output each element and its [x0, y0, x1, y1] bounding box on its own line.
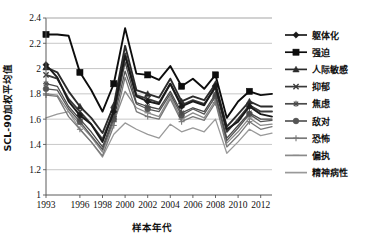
- x-axis-tick-label: 1996: [70, 200, 89, 210]
- legend-label: 焦虑: [311, 98, 330, 109]
- x-axis-tick-label: 2000: [116, 200, 135, 210]
- data-point-marker: [179, 83, 185, 89]
- legend-item-2[interactable]: 人际敏感: [285, 64, 348, 75]
- legend: 躯体化强迫人际敏感抑郁焦虑敌对恐怖偏执精神病性: [285, 30, 348, 179]
- legend-label: 抑郁: [312, 81, 330, 92]
- y-axis-tick-label: 1.4: [29, 140, 41, 150]
- legend-item-8[interactable]: 精神病性: [285, 167, 348, 178]
- data-point-marker: [179, 110, 185, 116]
- data-point-marker: [293, 135, 299, 141]
- grid-lines: [43, 18, 272, 195]
- legend-label: 恐怖: [312, 133, 330, 144]
- legend-label: 敌对: [312, 116, 330, 127]
- legend-label: 精神病性: [312, 167, 348, 178]
- line-chart: 11.21.41.61.822.22.4 1993199619982000200…: [0, 0, 379, 237]
- legend-item-3[interactable]: 抑郁: [285, 81, 330, 92]
- x-axis-tick-label: 2004: [161, 200, 180, 210]
- x-axis-title: 样本年代: [132, 222, 172, 233]
- y-axis-tick-label: 2: [36, 64, 41, 74]
- y-axis-tick-label: 2.2: [29, 39, 41, 49]
- data-point-marker: [145, 72, 151, 78]
- data-point-marker: [293, 118, 299, 124]
- data-point-marker: [111, 81, 117, 87]
- legend-item-4[interactable]: 焦虑: [285, 98, 330, 109]
- legend-item-6[interactable]: 恐怖: [285, 133, 330, 144]
- x-axis-tick-label: 1998: [93, 200, 112, 210]
- legend-label: 强迫: [312, 47, 331, 58]
- y-axis-tick-label: 2.4: [29, 13, 41, 23]
- y-axis-tick-label: 1: [36, 190, 41, 200]
- x-axis-tick-label: 2006: [183, 200, 202, 210]
- data-point-marker: [246, 88, 252, 94]
- y-axis-tick-labels: 11.21.41.61.822.22.4: [29, 13, 41, 200]
- data-point-marker: [293, 49, 299, 55]
- y-axis-title: SCL-90加权平均值: [2, 64, 13, 151]
- y-axis-tick-label: 1.6: [29, 115, 41, 125]
- legend-label: 人际敏感: [311, 64, 348, 75]
- data-point-marker: [77, 69, 83, 75]
- legend-label: 躯体化: [311, 30, 339, 41]
- x-axis-tick-label: 2008: [206, 200, 225, 210]
- legend-label: 偏执: [312, 150, 330, 161]
- legend-item-5[interactable]: 敌对: [285, 116, 330, 127]
- legend-item-0[interactable]: 躯体化: [285, 30, 339, 41]
- x-axis-tick-labels: 1993199619982000200220042006200820102012: [37, 195, 271, 210]
- legend-item-7[interactable]: 偏执: [285, 150, 330, 161]
- data-point-marker: [293, 32, 299, 38]
- data-point-marker: [212, 72, 218, 78]
- chart-container: 11.21.41.61.822.22.4 1993199619982000200…: [0, 0, 379, 237]
- data-point-marker: [145, 114, 151, 120]
- legend-item-1[interactable]: 强迫: [285, 47, 331, 58]
- series-lines: [43, 28, 272, 157]
- x-axis-tick-label: 2012: [251, 200, 270, 210]
- y-axis-tick-label: 1.2: [29, 165, 41, 175]
- data-point-marker: [293, 101, 299, 107]
- x-axis-tick-label: 2002: [138, 200, 157, 210]
- x-axis-tick-label: 2010: [229, 200, 248, 210]
- x-axis-tick-label: 1993: [37, 200, 56, 210]
- y-axis-tick-label: 1.8: [29, 89, 41, 99]
